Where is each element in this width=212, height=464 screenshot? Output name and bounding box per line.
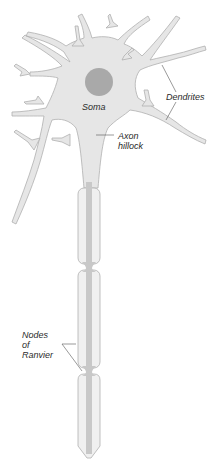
- label-nodes-line1: Nodes: [22, 330, 48, 340]
- label-nodes-line2: of: [22, 340, 30, 350]
- dendrites-leader-upper: [162, 65, 176, 92]
- axon-core: [86, 182, 92, 454]
- dendrites-leader-lower: [166, 102, 176, 120]
- label-axon-hillock-line2: hillock: [118, 141, 143, 151]
- cell-body: [12, 14, 206, 224]
- dendrites: [12, 14, 206, 224]
- label-dendrites: Dendrites: [166, 92, 205, 102]
- label-soma: Soma: [82, 102, 106, 112]
- label-nodes-line3: Ranvier: [22, 350, 53, 360]
- nucleus: [85, 68, 113, 96]
- label-axon-hillock-line1: Axon: [118, 131, 139, 141]
- neuron-diagram: [0, 0, 212, 464]
- axon: [78, 182, 100, 458]
